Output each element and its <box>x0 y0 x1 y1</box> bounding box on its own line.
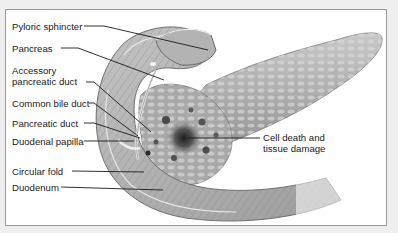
label-pancreatic-duct: Pancreatic duct <box>12 118 78 129</box>
label-accessory-pancreatic-duct: Accessory pancreatic duct <box>12 65 77 87</box>
label-circular-fold: Circular fold <box>12 166 63 177</box>
label-common-bile-duct: Common bile duct <box>12 98 89 109</box>
label-pyloric-sphincter: Pyloric sphincter <box>12 21 82 32</box>
diagram-panel: Pyloric sphincter Pancreas Accessory pan… <box>5 9 387 226</box>
label-duodenal-papilla: Duodenal papilla <box>12 136 83 147</box>
label-cell-death: Cell death and tissue damage <box>263 132 325 154</box>
label-duodenum: Duodenum <box>12 182 59 193</box>
label-pancreas: Pancreas <box>12 43 53 54</box>
